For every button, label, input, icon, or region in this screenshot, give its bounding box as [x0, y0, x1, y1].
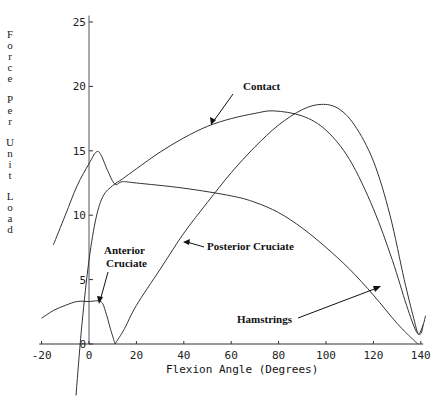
x-tick-label: 0: [86, 349, 93, 362]
svg-text:r: r: [8, 115, 12, 127]
posterior-cruciate-curve: [115, 104, 425, 344]
svg-text:t: t: [8, 169, 11, 181]
y-tick-label: 15: [73, 145, 86, 158]
y-tick-label: 5: [79, 274, 86, 287]
anterior-arrow: [100, 272, 108, 301]
contact-arrow: [213, 94, 233, 122]
anterior-cruciate-label-1: Anterior: [104, 244, 145, 256]
posterior-arrowhead-icon: [183, 239, 190, 245]
hamstrings-label: Hamstrings: [237, 313, 293, 325]
y-tick-label: 10: [73, 209, 86, 222]
anterior-cruciate-curve: [42, 301, 116, 344]
hamstrings-arrow: [298, 288, 377, 318]
y-axis-title: ForcePerUnitLoad: [6, 28, 14, 235]
posterior-arrow: [187, 242, 204, 247]
force-chart: -200204060801001201400510152025 Contact …: [0, 0, 439, 396]
hamstrings-arrowhead-icon: [373, 286, 381, 292]
posterior-cruciate-label: Posterior Cruciate: [207, 240, 294, 252]
y-tick-label: 25: [73, 16, 86, 29]
svg-text:d: d: [7, 223, 13, 235]
anterior-cruciate-label-2: Cruciate: [106, 257, 147, 269]
x-tick-label: 100: [316, 349, 336, 362]
x-axis-title: Flexion Angle (Degrees): [166, 363, 318, 376]
x-tick-label: 20: [130, 349, 143, 362]
x-tick-label: 140: [411, 349, 431, 362]
axes: -200204060801001201400510152025: [32, 16, 431, 362]
x-tick-label: 60: [225, 349, 238, 362]
x-tick-label: 80: [272, 349, 285, 362]
x-tick-label: -20: [32, 349, 52, 362]
svg-text:e: e: [8, 72, 13, 84]
x-tick-label: 40: [177, 349, 190, 362]
y-tick-label: 20: [73, 80, 86, 93]
contact-label: Contact: [243, 80, 281, 92]
x-tick-label: 120: [363, 349, 383, 362]
